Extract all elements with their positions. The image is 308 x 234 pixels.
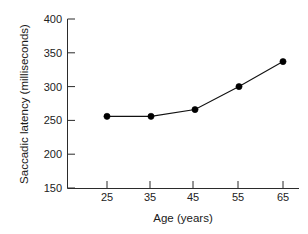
- y-tick-labels: 400 350 300 250 200 150: [44, 13, 62, 194]
- x-tick-label: 65: [277, 191, 289, 203]
- x-axis-title: Age (years): [153, 212, 213, 224]
- y-tick-label: 350: [44, 47, 62, 59]
- x-axis-ticks: [107, 181, 283, 189]
- data-point: [148, 113, 154, 119]
- data-point: [104, 113, 110, 119]
- y-tick-label: 250: [44, 114, 62, 126]
- x-tick-label: 25: [101, 191, 113, 203]
- series-markers: [104, 58, 286, 119]
- x-tick-label: 55: [232, 191, 244, 203]
- y-tick-label: 400: [44, 13, 62, 25]
- x-tick-label: 35: [144, 191, 156, 203]
- y-tick-label: 150: [44, 182, 62, 194]
- y-tick-label: 300: [44, 81, 62, 93]
- y-axis-ticks: [68, 19, 76, 188]
- data-point: [236, 84, 242, 90]
- y-tick-label: 200: [44, 148, 62, 160]
- data-point: [280, 58, 286, 64]
- chart-canvas: 400 350 300 250 200 150 25 35 45 55 65 S…: [0, 0, 308, 234]
- x-tick-labels: 25 35 45 55 65: [101, 191, 289, 203]
- axis-spines: [68, 19, 300, 189]
- x-tick-label: 45: [187, 191, 199, 203]
- data-point: [192, 106, 198, 112]
- y-axis-title: Saccadic latency (milliseconds): [18, 24, 30, 184]
- chart-figure: 400 350 300 250 200 150 25 35 45 55 65 S…: [0, 0, 308, 234]
